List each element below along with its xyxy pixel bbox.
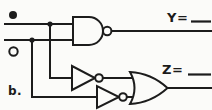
not-2-body	[97, 86, 119, 108]
junction-dot-1	[47, 21, 52, 26]
nand-gate	[73, 17, 111, 45]
circuit-diagram: Y= Z= b.	[0, 0, 212, 110]
nand-body	[73, 17, 103, 45]
wire-branch-to-not-2	[32, 40, 99, 97]
not-1-bubble-icon	[95, 74, 103, 82]
open-circle-marker	[9, 47, 17, 55]
wire-branch-to-not-1	[50, 24, 74, 78]
not-1-body	[72, 66, 95, 90]
nand-bubble-icon	[103, 27, 111, 35]
not-gate-2	[97, 86, 127, 108]
not-2-bubble-icon	[119, 93, 127, 101]
filled-dot-marker	[9, 11, 17, 19]
part-label: b.	[8, 85, 22, 98]
output-y-label: Y=	[167, 11, 188, 24]
output-z-label: Z=	[162, 63, 183, 76]
junction-dot-2	[29, 37, 34, 42]
